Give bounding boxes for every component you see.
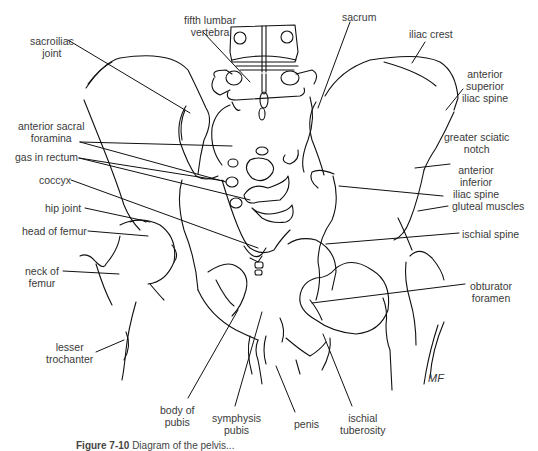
label-iliac-crest: iliac crest [409,28,453,40]
label-head-of-femur: head of femur [22,225,87,237]
label-coccyx: coccyx [39,174,71,186]
right-femur-shape [383,251,444,390]
figure-caption: Figure 7-10 Diagram of the pelvis... [76,440,234,451]
label-obturator-foramen: obturator foramen [470,280,512,304]
label-ischial-tuberosity: ischial tuberosity [340,412,386,436]
left-femur-shape [80,220,177,380]
label-ischial-spine: ischial spine [462,228,519,240]
label-anterior-inferior-iliac-spine: anterior inferior iliac spine [453,164,499,200]
sacrum-shape [212,88,313,275]
label-penis: penis [294,418,319,430]
caption-number: Figure 7-10 [76,440,129,451]
caption-text: Diagram of the pelvis... [132,440,234,451]
pubis-shape [198,239,389,384]
label-body-of-pubis: body of pubis [160,404,194,428]
label-lesser-trochanter: lesser trochanter [46,341,93,365]
label-anterior-superior-iliac-spine: anterior superior iliac spine [462,68,508,104]
label-hip-joint: hip joint [45,202,81,214]
left-ilium-shape [84,56,218,290]
label-neck-of-femur: neck of femur [25,265,59,289]
label-fifth-lumbar-vertebra: fifth lumbar vertebra [184,14,236,38]
label-sacroiliac-joint: sacroiliac joint [30,35,74,59]
label-gas-in-rectum: gas in rectum [15,151,78,163]
label-gluteal-muscles: gluteal muscles [452,200,524,212]
label-symphysis-pubis: symphysis pubis [212,412,261,436]
label-greater-sciatic-notch: greater sciatic notch [444,131,509,155]
label-sacrum: sacrum [342,11,376,23]
signature-stroke [430,322,444,378]
label-anterior-sacral-foramina: anterior sacral foramina [18,120,85,144]
artist-signature: MF [428,372,444,384]
